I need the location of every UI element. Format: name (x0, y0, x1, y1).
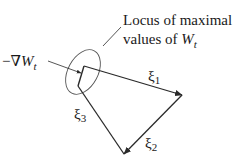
label-xi3: ξ3 (74, 106, 87, 124)
vector-diagram: Locus of maximal values of Wt −∇Wt ξ1 ξ2… (0, 0, 246, 162)
label-xi2: ξ2 (145, 135, 157, 153)
gradient-label: −∇Wt (2, 53, 37, 72)
gradient-leader-arrow (48, 61, 81, 73)
locus-label-line2: values of Wt (123, 31, 198, 50)
vector-xi1 (84, 66, 182, 95)
closing-segment (78, 66, 84, 86)
locus-ellipse (58, 44, 107, 100)
locus-leader-line (103, 27, 121, 46)
label-xi1: ξ1 (148, 68, 160, 86)
locus-label-line1: Locus of maximal (123, 12, 232, 28)
